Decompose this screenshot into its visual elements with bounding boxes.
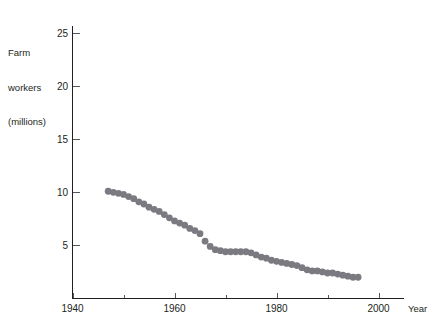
- y-tick-label-15: 15: [44, 134, 68, 145]
- data-point: [197, 230, 204, 237]
- tick-marks-group: [73, 34, 380, 299]
- data-series-farm-workers: [105, 188, 362, 281]
- y-tick-label-5: 5: [44, 240, 68, 251]
- data-point: [355, 274, 362, 281]
- farm-workers-chart: Farm workers (millions) Year 510152025 1…: [0, 0, 443, 329]
- data-point: [202, 238, 209, 245]
- x-tick-label-2000: 2000: [367, 303, 389, 314]
- y-axis-title-line-3: (millions): [8, 116, 66, 128]
- x-tick-label-1960: 1960: [163, 303, 185, 314]
- x-axis-title: Year: [408, 303, 427, 314]
- y-tick-label-20: 20: [44, 81, 68, 92]
- x-tick-label-1980: 1980: [265, 303, 287, 314]
- y-tick-label-25: 25: [44, 28, 68, 39]
- plot-area: [0, 0, 443, 329]
- axis-lines-group: [72, 26, 404, 299]
- y-tick-label-10: 10: [44, 187, 68, 198]
- x-tick-label-1940: 1940: [61, 303, 83, 314]
- y-axis-title-line-1: Farm: [8, 47, 66, 59]
